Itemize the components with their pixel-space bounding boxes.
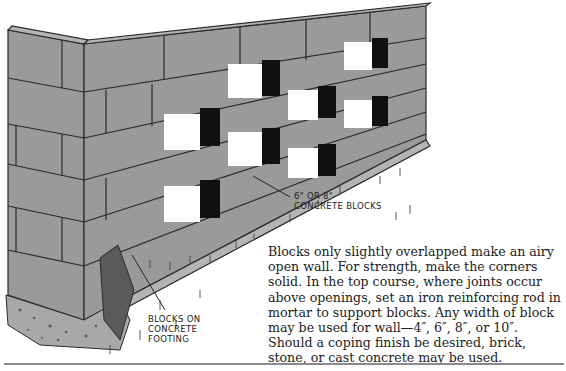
corner-return-wall — [8, 26, 88, 320]
label-line: CONCRETE BLOCKS — [294, 201, 382, 211]
footing-label: BLOCKS ON CONCRETE FOOTING — [148, 314, 200, 344]
label-line: 6" OR 8" — [294, 191, 382, 201]
divider-rule — [4, 363, 564, 365]
concrete-blocks-label: 6" OR 8" CONCRETE BLOCKS — [294, 191, 382, 211]
figure-caption: Blocks only slightly overlapped make an … — [268, 244, 564, 366]
label-line: BLOCKS ON — [148, 314, 200, 324]
label-line: CONCRETE — [148, 324, 200, 334]
label-line: FOOTING — [148, 334, 200, 344]
